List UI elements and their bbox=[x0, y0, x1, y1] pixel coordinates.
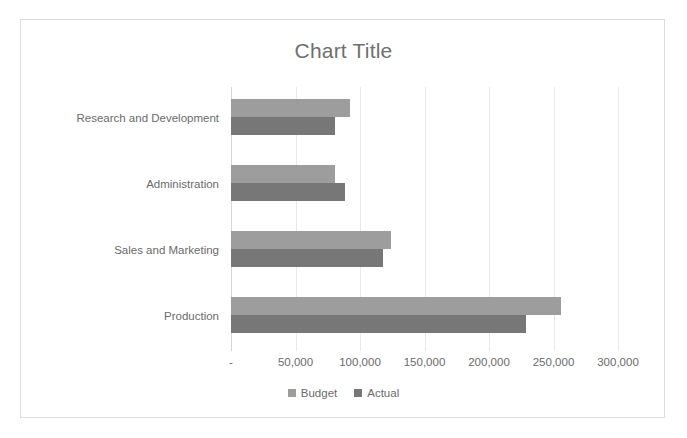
value-axis-tick-labels: -50,000100,000150,000200,000250,000300,0… bbox=[231, 356, 618, 374]
value-tick-label: - bbox=[229, 356, 233, 368]
category-label: Production bbox=[19, 310, 219, 322]
value-tick-label: 300,000 bbox=[597, 356, 639, 368]
bar-budget[interactable] bbox=[231, 165, 335, 183]
category-group bbox=[231, 87, 618, 153]
value-tick-label: 100,000 bbox=[339, 356, 381, 368]
bar-budget[interactable] bbox=[231, 297, 561, 315]
chart-legend: BudgetActual bbox=[21, 387, 666, 399]
legend-label: Actual bbox=[367, 387, 399, 399]
legend-swatch-icon bbox=[288, 389, 296, 397]
bar-actual[interactable] bbox=[231, 315, 526, 333]
value-tick-label: 250,000 bbox=[533, 356, 575, 368]
gridline bbox=[618, 87, 619, 351]
plot-area bbox=[231, 87, 618, 351]
chart-frame: Chart Title ProductionSales and Marketin… bbox=[20, 19, 665, 418]
bar-budget[interactable] bbox=[231, 231, 391, 249]
category-axis-labels: ProductionSales and MarketingAdministrat… bbox=[21, 87, 225, 351]
category-label: Sales and Marketing bbox=[19, 244, 219, 256]
category-group bbox=[231, 219, 618, 285]
legend-entry-actual[interactable]: Actual bbox=[354, 387, 399, 399]
category-label: Research and Development bbox=[19, 112, 219, 124]
bar-actual[interactable] bbox=[231, 249, 383, 267]
bar-actual[interactable] bbox=[231, 117, 335, 135]
category-group bbox=[231, 153, 618, 219]
category-label: Administration bbox=[19, 178, 219, 190]
bar-actual[interactable] bbox=[231, 183, 345, 201]
legend-swatch-icon bbox=[354, 389, 362, 397]
value-tick-label: 200,000 bbox=[468, 356, 510, 368]
legend-label: Budget bbox=[301, 387, 337, 399]
bar-budget[interactable] bbox=[231, 99, 350, 117]
chart-title: Chart Title bbox=[21, 39, 666, 63]
value-tick-label: 150,000 bbox=[404, 356, 446, 368]
category-group bbox=[231, 285, 618, 351]
value-tick-label: 50,000 bbox=[278, 356, 313, 368]
legend-entry-budget[interactable]: Budget bbox=[288, 387, 337, 399]
